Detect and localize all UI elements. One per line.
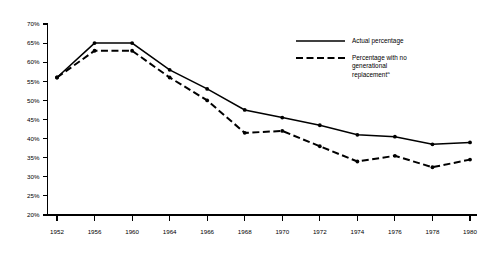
x-axis-labels: 1952195619601964196619681970197219741976…	[50, 228, 477, 235]
x-axis-tick-label: 1968	[238, 228, 252, 235]
x-axis-tick-label: 1980	[463, 228, 477, 235]
x-axis-tick-label: 1960	[125, 228, 139, 235]
legend-label-no-generational-replacement-line3: replacementa	[352, 70, 390, 79]
data-point	[393, 135, 397, 139]
y-axis-tick-label: 40%	[27, 135, 40, 142]
y-axis: 20%25%30%35%40%45%50%55%60%65%70%	[27, 20, 47, 218]
legend-label-actual-percentage: Actual percentage	[352, 37, 404, 45]
y-axis-tick-label: 20%	[27, 211, 40, 218]
x-axis-tick-label: 1978	[426, 228, 440, 235]
y-axis-labels: 20%25%30%35%40%45%50%55%60%65%70%	[27, 20, 40, 218]
data-point	[130, 41, 134, 45]
data-point	[355, 160, 359, 164]
x-axis-tick-label: 1966	[200, 228, 214, 235]
x-axis-tick-label: 1974	[350, 228, 364, 235]
data-point	[93, 41, 97, 45]
data-point	[280, 129, 284, 133]
data-point	[55, 76, 59, 80]
y-axis-tick-label: 30%	[27, 173, 40, 180]
x-axis-tick-label: 1972	[313, 228, 327, 235]
chart-container: 20%25%30%35%40%45%50%55%60%65%70% 195219…	[0, 0, 499, 259]
legend-label-no-generational-replacement-line1: Percentage with no	[352, 54, 407, 62]
x-axis: 1952195619601964196619681970197219741976…	[48, 215, 478, 235]
line-chart: 20%25%30%35%40%45%50%55%60%65%70% 195219…	[0, 0, 499, 259]
y-axis-tick-label: 65%	[27, 39, 40, 46]
y-axis-tick-label: 70%	[27, 20, 40, 27]
y-axis-tick-label: 60%	[27, 58, 40, 65]
series-group	[55, 41, 472, 169]
data-point	[205, 99, 209, 103]
series-line-actual-percentage	[57, 43, 470, 144]
data-point	[243, 131, 247, 135]
data-point	[168, 68, 172, 72]
data-point	[205, 87, 209, 91]
data-point	[468, 158, 472, 162]
x-axis-tick-label: 1956	[88, 228, 102, 235]
legend-label-no-generational-replacement-line2: generational	[352, 62, 387, 70]
data-point	[130, 49, 134, 53]
series-line-no-generational-replacement	[57, 51, 470, 168]
series-markers-actual-percentage	[55, 41, 472, 146]
data-point	[431, 165, 435, 169]
x-axis-tick-label: 1952	[50, 228, 64, 235]
y-axis-ticks	[43, 24, 48, 215]
y-axis-tick-label: 25%	[27, 192, 40, 199]
y-axis-tick-label: 50%	[27, 97, 40, 104]
legend-label-text: replacement	[352, 71, 387, 79]
data-point	[318, 144, 322, 148]
data-point	[468, 141, 472, 145]
data-point	[93, 49, 97, 53]
data-point	[168, 76, 172, 80]
data-point	[243, 108, 247, 112]
legend-footnote-marker: a	[387, 70, 390, 75]
y-axis-tick-label: 45%	[27, 116, 40, 123]
y-axis-tick-label: 35%	[27, 154, 40, 161]
data-point	[318, 123, 322, 127]
data-point	[393, 154, 397, 158]
x-axis-tick-label: 1976	[388, 228, 402, 235]
data-point	[355, 133, 359, 137]
x-axis-tick-label: 1970	[275, 228, 289, 235]
x-axis-tick-label: 1964	[163, 228, 177, 235]
data-point	[431, 142, 435, 146]
x-axis-ticks	[57, 215, 470, 221]
legend: Actual percentage Percentage with no gen…	[296, 37, 407, 78]
series-markers-no-generational-replacement	[55, 49, 472, 169]
data-point	[280, 116, 284, 120]
y-axis-tick-label: 55%	[27, 78, 40, 85]
